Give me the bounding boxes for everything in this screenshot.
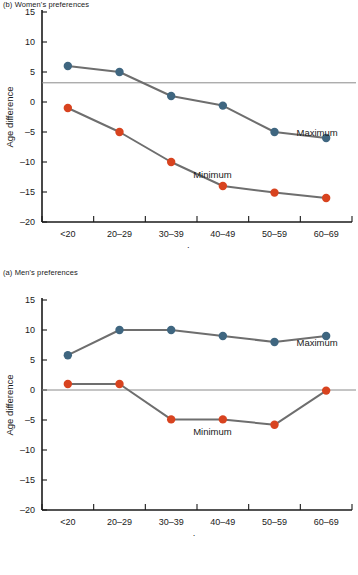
x-category-label: 40–49 — [210, 517, 235, 527]
y-tick-label: 15 — [25, 295, 35, 305]
series-line-maximum — [68, 330, 326, 355]
data-point-maximum — [270, 338, 278, 346]
panel-b-caption: (b) Women's preferences — [3, 0, 89, 9]
y-tick-label: 10 — [25, 37, 35, 47]
plot-area-b: 151050–5–10–15–20<2020–2930–3940–4950–59… — [0, 288, 358, 536]
data-point-minimum — [270, 188, 278, 196]
data-point-minimum — [270, 421, 278, 429]
x-category-label: <20 — [60, 517, 75, 527]
y-tick-label: –15 — [20, 475, 35, 485]
data-point-maximum — [64, 351, 72, 359]
data-point-minimum — [322, 386, 330, 394]
x-category-label: 20–29 — [107, 229, 132, 239]
data-point-minimum — [167, 415, 175, 423]
data-point-maximum — [167, 326, 175, 334]
x-category-label: 60–69 — [314, 517, 339, 527]
series-label-maximum: Maximum — [297, 127, 338, 138]
y-tick-label: –10 — [20, 157, 35, 167]
data-point-minimum — [115, 380, 123, 388]
y-tick-label: 10 — [25, 325, 35, 335]
data-point-maximum — [64, 62, 72, 70]
series-label-minimum: Minimum — [193, 426, 232, 437]
y-tick-label: –20 — [20, 217, 35, 227]
y-tick-label: –10 — [20, 445, 35, 455]
x-category-label: <20 — [60, 229, 75, 239]
figure-panel-b: 151050–5–10–15–20<2020–2930–3940–4950–59… — [0, 288, 358, 575]
y-tick-label: 0 — [30, 385, 35, 395]
data-point-maximum — [167, 92, 175, 100]
data-point-minimum — [115, 128, 123, 136]
data-point-minimum — [167, 158, 175, 166]
x-category-label: 30–39 — [159, 229, 184, 239]
y-tick-label: –5 — [25, 127, 35, 137]
x-category-label: 20–29 — [107, 517, 132, 527]
data-point-minimum — [219, 182, 227, 190]
data-point-minimum — [219, 415, 227, 423]
data-point-minimum — [64, 104, 72, 112]
panel-a-caption: (a) Men's preferences — [3, 268, 78, 277]
y-tick-label: –15 — [20, 187, 35, 197]
data-point-maximum — [115, 326, 123, 334]
data-point-minimum — [64, 380, 72, 388]
y-tick-label: 5 — [30, 67, 35, 77]
chart-b-svg: 151050–5–10–15–20<2020–2930–3940–4950–59… — [0, 288, 358, 536]
x-category-label: 60–69 — [314, 229, 339, 239]
figure-panel-a: 151050–5–10–15–20<2020–2930–3940–4950–59… — [0, 0, 358, 288]
x-category-label: 50–59 — [262, 517, 287, 527]
plot-area-a: 151050–5–10–15–20<2020–2930–3940–4950–59… — [0, 0, 358, 248]
x-category-label: 30–39 — [159, 517, 184, 527]
data-point-minimum — [322, 194, 330, 202]
x-axis-title: Male's age — [174, 245, 220, 248]
series-line-maximum — [68, 66, 326, 138]
series-line-minimum — [68, 108, 326, 198]
y-tick-label: 5 — [30, 355, 35, 365]
series-label-minimum: Minimum — [193, 169, 232, 180]
x-category-label: 40–49 — [210, 229, 235, 239]
x-axis-title: Female's age — [169, 533, 226, 536]
chart-a-svg: 151050–5–10–15–20<2020–2930–3940–4950–59… — [0, 0, 358, 248]
y-tick-label: –20 — [20, 505, 35, 515]
data-point-maximum — [219, 332, 227, 340]
x-category-label: 50–59 — [262, 229, 287, 239]
y-axis-title: Age difference — [4, 86, 15, 147]
data-point-maximum — [219, 101, 227, 109]
data-point-maximum — [270, 128, 278, 136]
y-tick-label: –5 — [25, 415, 35, 425]
y-axis-title: Age difference — [4, 374, 15, 435]
data-point-maximum — [115, 68, 123, 76]
series-label-maximum: Maximum — [297, 337, 338, 348]
y-tick-label: 0 — [30, 97, 35, 107]
